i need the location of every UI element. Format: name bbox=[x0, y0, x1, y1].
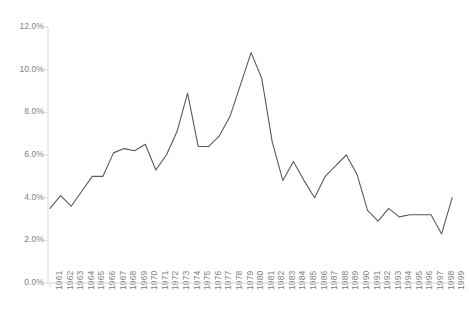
axis-ticks bbox=[44, 27, 452, 287]
axis-lines bbox=[48, 27, 461, 283]
data-series-line bbox=[50, 53, 452, 234]
line-chart-plot bbox=[0, 0, 469, 324]
chart-container: 0.0%2.0%4.0%6.0%8.0%10.0%12.0% 196119621… bbox=[0, 0, 469, 324]
